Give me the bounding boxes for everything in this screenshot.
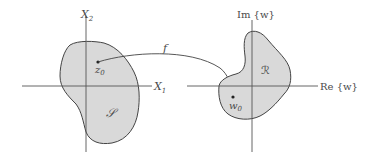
x2-axis-label: X2 — [80, 8, 94, 23]
complex-mapping-diagram: X2 X1 z0 𝒮 f Im {w} Re {w} w0 ℛ — [0, 0, 366, 158]
region-r-label: ℛ — [261, 64, 270, 77]
left-plane: X2 X1 z0 𝒮 — [22, 8, 166, 152]
im-axis-label: Im {w} — [237, 9, 275, 20]
point-w0 — [231, 95, 234, 98]
right-plane: Im {w} Re {w} w0 ℛ — [187, 9, 358, 152]
re-axis-label: Re {w} — [320, 81, 358, 92]
region-s — [60, 41, 139, 143]
mapping-label: f — [162, 42, 169, 55]
x1-axis-label: X1 — [153, 80, 166, 95]
